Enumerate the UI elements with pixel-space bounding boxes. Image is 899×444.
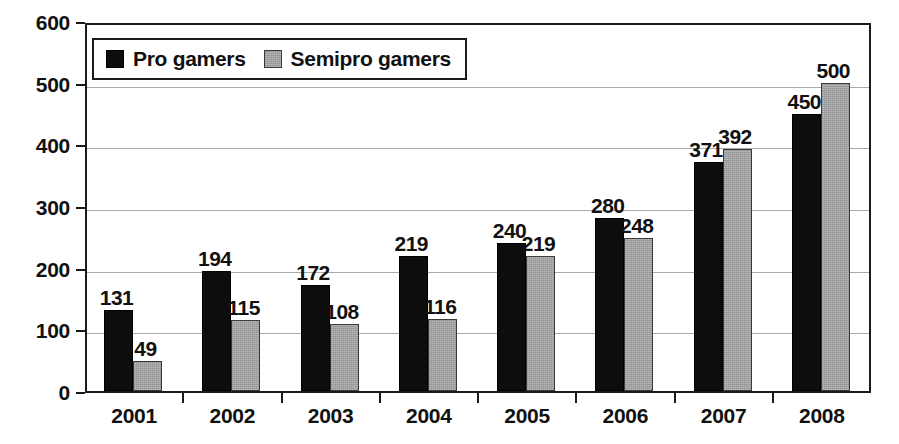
bar-value-semipro-2007: 392 bbox=[718, 125, 752, 149]
legend-entry-semipro-gamers: Semipro gamers bbox=[264, 47, 451, 71]
gridline-300 bbox=[87, 210, 869, 211]
bar-pro-2001 bbox=[104, 310, 133, 391]
x-tick-label-2008: 2008 bbox=[799, 404, 845, 428]
x-tick-label-2004: 2004 bbox=[406, 404, 452, 428]
chart-legend: Pro gamers Semipro gamers bbox=[92, 38, 467, 80]
bar-pro-2004 bbox=[399, 256, 428, 391]
bar-semipro-2006 bbox=[624, 238, 653, 391]
bar-semipro-2003 bbox=[330, 324, 359, 391]
x-tick-label-2005: 2005 bbox=[504, 404, 550, 428]
y-tick-mark-200 bbox=[76, 269, 85, 271]
y-tick-label-300: 300 bbox=[8, 196, 70, 220]
gridline-500 bbox=[87, 87, 869, 88]
legend-entry-pro-gamers: Pro gamers bbox=[106, 47, 246, 71]
bar-value-pro-2002: 194 bbox=[198, 247, 232, 271]
bar-semipro-2007 bbox=[723, 149, 752, 391]
bar-pro-2002 bbox=[202, 271, 231, 391]
x-tick-mark-6 bbox=[674, 393, 676, 403]
y-tick-mark-100 bbox=[76, 330, 85, 332]
bar-value-semipro-2002: 115 bbox=[228, 296, 260, 320]
x-tick-mark-5 bbox=[575, 393, 577, 403]
bar-value-semipro-2004: 116 bbox=[424, 295, 456, 319]
x-tick-label-2003: 2003 bbox=[308, 404, 354, 428]
y-tick-mark-300 bbox=[76, 207, 85, 209]
y-tick-label-600: 600 bbox=[8, 11, 70, 35]
bar-value-semipro-2006: 248 bbox=[620, 214, 654, 238]
bar-semipro-2002 bbox=[231, 320, 260, 391]
y-tick-label-200: 200 bbox=[8, 258, 70, 282]
bar-value-pro-2008: 450 bbox=[787, 90, 821, 114]
legend-label-pro-gamers: Pro gamers bbox=[133, 47, 246, 71]
bar-semipro-2004 bbox=[428, 319, 457, 391]
x-tick-label-2001: 2001 bbox=[111, 404, 157, 428]
bar-chart: 0100200300400500600 20012002200320042005… bbox=[0, 0, 899, 444]
x-tick-label-2002: 2002 bbox=[210, 404, 256, 428]
y-tick-mark-600 bbox=[76, 22, 85, 24]
bar-semipro-2005 bbox=[526, 256, 555, 391]
bar-value-semipro-2008: 500 bbox=[816, 59, 850, 83]
bar-value-pro-2004: 219 bbox=[394, 232, 428, 256]
bar-value-semipro-2003: 108 bbox=[325, 300, 359, 324]
x-tick-label-2006: 2006 bbox=[603, 404, 649, 428]
x-tick-mark-4 bbox=[477, 393, 479, 403]
legend-swatch-pro-gamers-icon bbox=[106, 50, 124, 68]
bar-semipro-2001 bbox=[133, 361, 162, 391]
x-tick-mark-1 bbox=[182, 393, 184, 403]
bar-value-pro-2001: 131 bbox=[100, 286, 134, 310]
legend-swatch-semipro-gamers-icon bbox=[264, 50, 282, 68]
x-tick-mark-7 bbox=[772, 393, 774, 403]
y-tick-mark-0 bbox=[76, 392, 85, 394]
y-tick-label-400: 400 bbox=[8, 134, 70, 158]
y-tick-label-100: 100 bbox=[8, 319, 70, 343]
bar-pro-2005 bbox=[497, 243, 526, 391]
legend-label-semipro-gamers: Semipro gamers bbox=[291, 47, 451, 71]
x-tick-mark-2 bbox=[281, 393, 283, 403]
x-tick-label-2007: 2007 bbox=[701, 404, 747, 428]
bar-value-pro-2003: 172 bbox=[296, 261, 330, 285]
y-tick-mark-500 bbox=[76, 84, 85, 86]
y-tick-mark-400 bbox=[76, 145, 85, 147]
bar-value-semipro-2005: 219 bbox=[522, 232, 556, 256]
y-tick-label-500: 500 bbox=[8, 73, 70, 97]
bar-pro-2008 bbox=[792, 114, 821, 392]
bar-pro-2007 bbox=[694, 162, 723, 391]
bar-semipro-2008 bbox=[821, 83, 850, 391]
bar-pro-2006 bbox=[595, 218, 624, 391]
y-tick-label-0: 0 bbox=[8, 381, 70, 405]
x-tick-mark-3 bbox=[379, 393, 381, 403]
bar-value-semipro-2001: 49 bbox=[134, 337, 156, 361]
